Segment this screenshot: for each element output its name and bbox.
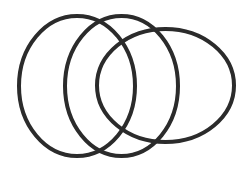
diagram-canvas bbox=[0, 0, 252, 171]
ellipse-left bbox=[19, 16, 135, 156]
ellipse-right bbox=[97, 29, 234, 142]
ellipse-middle bbox=[65, 16, 178, 156]
overlapping-ellipses-diagram bbox=[0, 0, 252, 171]
